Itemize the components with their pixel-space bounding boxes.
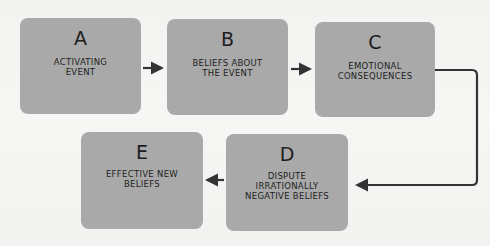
box-letter: E: [81, 141, 203, 163]
box-label: BELIEFS ABOUT THE EVENT: [167, 58, 288, 78]
box-label: EFFECTIVE NEW BELIEFS: [81, 169, 203, 189]
box-letter: C: [315, 31, 435, 53]
box-a-activating-event: A ACTIVATING EVENT: [20, 18, 141, 114]
box-c-emotional-consequences: C EMOTIONAL CONSEQUENCES: [315, 22, 435, 117]
box-d-dispute: D DISPUTE IRRATIONALLY NEGATIVE BELIEFS: [226, 134, 348, 231]
box-label: EMOTIONAL CONSEQUENCES: [315, 61, 435, 81]
box-e-effective-new-beliefs: E EFFECTIVE NEW BELIEFS: [81, 132, 203, 229]
box-letter: D: [226, 143, 348, 165]
box-label: DISPUTE IRRATIONALLY NEGATIVE BELIEFS: [226, 171, 348, 201]
box-b-beliefs: B BELIEFS ABOUT THE EVENT: [167, 19, 288, 115]
box-letter: B: [167, 28, 288, 50]
box-letter: A: [20, 27, 141, 49]
box-label: ACTIVATING EVENT: [20, 57, 141, 77]
